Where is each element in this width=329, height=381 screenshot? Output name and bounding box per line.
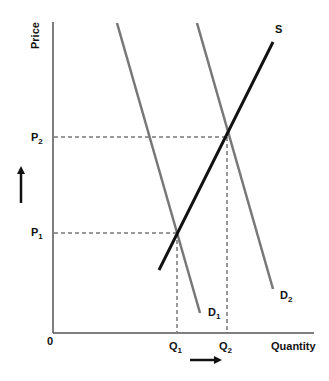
p2-label: P2 (31, 131, 43, 146)
q1-label: Q1 (169, 340, 183, 355)
origin-label: 0 (47, 335, 53, 347)
supply-curve (159, 42, 273, 270)
q2-label: Q2 (219, 340, 233, 355)
x-axis-label: Quantity (271, 340, 316, 352)
y-axis-label: Price (29, 22, 41, 49)
p1-label: P1 (31, 226, 43, 241)
demand1-label: D1 (208, 306, 221, 321)
supply-demand-diagram: Price Quantity 0 P2 P1 Q1 Q2 S D1 D2 (0, 0, 329, 381)
supply-label: S (275, 23, 282, 35)
demand2-label: D2 (280, 289, 293, 304)
